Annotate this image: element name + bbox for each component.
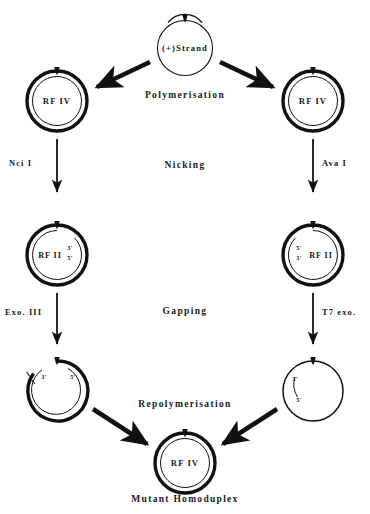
end-label-rf2-left-3prime: 3' <box>67 244 72 251</box>
node-gapped-left <box>27 357 88 421</box>
node-label-rf4-right: RF IV <box>299 96 327 106</box>
stage-label-nicking: Nicking <box>164 160 205 170</box>
end-label-gapped-left-5prime: 5' <box>70 373 75 380</box>
end-label-rf2-right-5prime: 5' <box>296 244 301 251</box>
node-gapped-right <box>283 357 343 421</box>
figure-caption: Mutant Homoduplex <box>131 494 238 504</box>
node-label-rf2-left: RF II <box>38 251 62 260</box>
enzyme-label-exo-iii: Exo. III <box>5 307 42 317</box>
figure-canvas: (+)Strand RF IV RF IV RF II 3' 5' RF II … <box>0 0 370 514</box>
end-label-gapped-right-3prime: 3' <box>292 375 297 382</box>
arrow-repolymerisation-right <box>223 409 277 444</box>
node-label-top-strand: (+)Strand <box>162 43 208 53</box>
arrow-polymerisation-left <box>97 62 150 87</box>
stage-label-gapping: Gapping <box>163 306 208 316</box>
node-label-rf4-left: RF IV <box>43 96 71 106</box>
enzyme-label-ava-i: Ava I <box>322 158 347 168</box>
node-label-rf2-right: RF II <box>309 251 333 260</box>
end-label-rf2-left-5prime: 5' <box>67 254 72 261</box>
end-label-rf2-right-3prime: 3' <box>296 254 301 261</box>
arrow-polymerisation-right <box>220 62 273 87</box>
enzyme-label-t7-exo: T7 exo. <box>322 307 356 317</box>
enzyme-label-nci-i: Nci I <box>9 158 32 168</box>
end-label-gapped-right-5prime: 5' <box>296 396 301 403</box>
stage-label-polymerisation: Polymerisation <box>145 90 225 100</box>
end-label-gapped-left-3prime: 3' <box>41 373 46 380</box>
stage-label-repolymerisation: Repolymerisation <box>138 399 231 409</box>
node-label-rf4-bottom: RF IV <box>171 458 199 468</box>
arrow-repolymerisation-left <box>93 409 147 444</box>
